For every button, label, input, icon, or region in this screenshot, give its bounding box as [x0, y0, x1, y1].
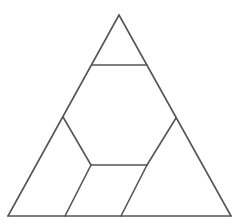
left-edge-line — [8, 15, 119, 216]
triangle-diagram-canvas — [0, 0, 251, 223]
inner-left-to-bottom-line — [65, 165, 91, 216]
inner-right-to-bottom-line — [121, 165, 147, 216]
right-node-to-inner-right-line — [147, 118, 176, 165]
triangle-diagram — [0, 0, 251, 223]
left-node-to-inner-left-line — [63, 117, 91, 165]
